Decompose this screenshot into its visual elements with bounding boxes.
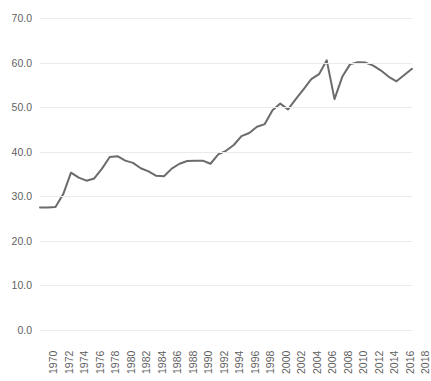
x-tick-label: 1976 [95, 351, 106, 374]
y-tick-label: 0.0 [17, 325, 32, 335]
chart-title [0, 0, 414, 1]
x-tick-label: 2006 [327, 351, 338, 374]
gridline [40, 330, 412, 331]
x-tick-label: 2010 [358, 351, 369, 374]
x-tick-label: 1996 [250, 351, 261, 374]
x-tick-label: 2018 [420, 351, 431, 374]
x-tick-label: 2016 [405, 351, 416, 374]
x-tick-label: 2002 [296, 351, 307, 374]
y-tick-label: 60.0 [12, 58, 32, 68]
x-tick-label: 1982 [141, 351, 152, 374]
gridline [40, 107, 412, 108]
gridline [40, 241, 412, 242]
x-tick-label: 1992 [219, 351, 230, 374]
x-tick-label: 1998 [265, 351, 276, 374]
x-tick-label: 1990 [203, 351, 214, 374]
x-tick-label: 2000 [281, 351, 292, 374]
x-tick-label: 2008 [343, 351, 354, 374]
plot-area [40, 18, 412, 330]
x-tick-label: 1972 [64, 351, 75, 374]
x-tick-label: 1984 [157, 351, 168, 374]
x-tick-label: 1974 [79, 351, 90, 374]
x-axis: 1970197219741976197819801982198419861988… [40, 334, 412, 381]
gridline [40, 285, 412, 286]
y-tick-label: 30.0 [12, 191, 32, 201]
y-tick-label: 40.0 [12, 147, 32, 157]
y-tick-label: 70.0 [12, 13, 32, 23]
y-tick-label: 20.0 [12, 236, 32, 246]
x-tick-label: 1986 [172, 351, 183, 374]
series-line [40, 18, 412, 330]
gridline [40, 63, 412, 64]
x-tick-label: 1980 [126, 351, 137, 374]
y-tick-label: 10.0 [12, 280, 32, 290]
gridline [40, 18, 412, 19]
x-tick-label: 1970 [48, 351, 59, 374]
x-tick-label: 1994 [234, 351, 245, 374]
gridline [40, 152, 412, 153]
y-tick-label: 50.0 [12, 102, 32, 112]
y-axis: 70.060.050.040.030.020.010.00.0 [0, 18, 36, 330]
x-tick-label: 1978 [110, 351, 121, 374]
x-tick-label: 2014 [389, 351, 400, 374]
gridline [40, 196, 412, 197]
x-tick-label: 1988 [188, 351, 199, 374]
x-tick-label: 2004 [312, 351, 323, 374]
x-tick-label: 2012 [374, 351, 385, 374]
